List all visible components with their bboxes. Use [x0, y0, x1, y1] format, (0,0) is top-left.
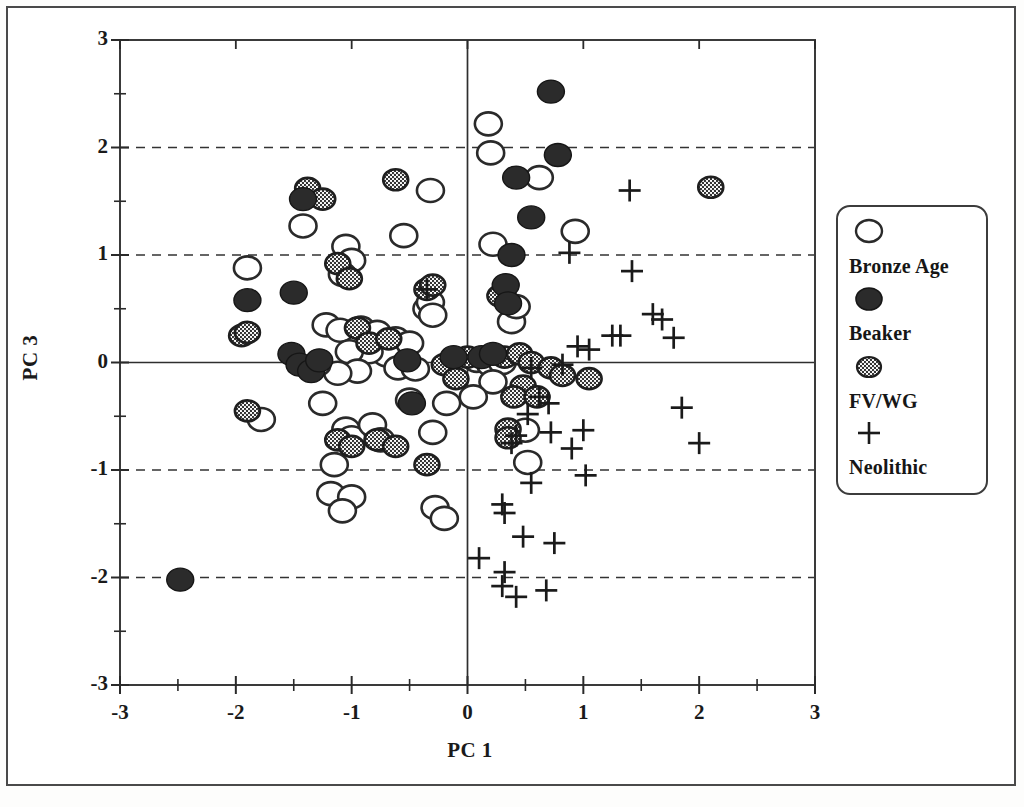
data-point-hatched-circle [501, 386, 526, 407]
data-point-open-circle [562, 220, 589, 243]
filled-circle-icon [852, 285, 886, 313]
data-point-filled-circle [306, 349, 333, 372]
data-point-filled-circle [498, 244, 525, 267]
data-point-open-circle [329, 499, 356, 522]
data-point-open-circle [431, 507, 458, 530]
data-point-open-circle [433, 392, 460, 415]
data-point-plus [642, 303, 664, 325]
data-point-plus [520, 472, 542, 494]
data-point-open-circle [477, 141, 504, 164]
data-point-filled-circle [290, 188, 317, 211]
data-point-filled-circle [167, 568, 194, 591]
legend: Bronze Age Beaker FV/WG Neolithic [836, 205, 988, 495]
data-point-plus [535, 579, 557, 601]
data-point-hatched-circle [443, 368, 468, 389]
data-point-open-circle [290, 214, 317, 237]
data-point-open-circle [321, 453, 348, 476]
data-point-filled-circle [518, 206, 545, 229]
legend-label: Bronze Age [849, 255, 949, 278]
open-circle-icon [852, 217, 886, 245]
data-point-filled-circle [280, 281, 307, 304]
xtick-label: 0 [448, 700, 488, 725]
data-point-plus [575, 464, 597, 486]
data-point-hatched-circle [235, 400, 260, 421]
data-point-filled-circle [495, 292, 522, 315]
data-point-open-circle [475, 112, 502, 135]
data-point-hatched-circle [337, 268, 362, 289]
data-point-filled-circle [394, 349, 421, 372]
data-point-open-circle [460, 385, 487, 408]
data-point-plus [491, 575, 513, 597]
data-point-plus [543, 532, 565, 554]
data-point-open-circle [234, 256, 261, 279]
xtick-label: -1 [332, 700, 372, 725]
data-point-hatched-circle [383, 436, 408, 457]
data-point-filled-circle [440, 346, 467, 369]
data-point-plus [688, 432, 710, 454]
ytick-label: 3 [62, 26, 108, 51]
data-point-open-circle [417, 179, 444, 202]
xtick-label: -3 [100, 700, 140, 725]
data-point-plus [512, 526, 534, 548]
data-point-plus [558, 242, 580, 264]
data-point-hatched-circle [339, 436, 364, 457]
ytick-label: -3 [62, 671, 108, 696]
ytick-label: -1 [62, 456, 108, 481]
ytick-label: -2 [62, 564, 108, 589]
data-point-hatched-circle [414, 454, 439, 475]
y-axis-title: PC 3 [18, 298, 43, 418]
legend-label: Beaker [849, 322, 911, 345]
data-point-hatched-circle [376, 328, 401, 349]
data-point-open-circle [419, 304, 446, 327]
data-point-plus [671, 397, 693, 419]
xtick-label: 2 [679, 700, 719, 725]
data-point-filled-circle [503, 166, 530, 189]
data-point-filled-circle [544, 144, 571, 167]
ytick-label: 1 [62, 241, 108, 266]
data-point-filled-circle [537, 80, 564, 103]
scatter-plot-figure: -3 -2 -1 0 1 2 3 3 2 1 0 -1 -2 -3 PC 1 P… [0, 0, 1024, 807]
data-point-open-circle [514, 451, 541, 474]
xtick-label: 3 [795, 700, 835, 725]
data-point-plus [578, 339, 600, 361]
data-point-plus [505, 586, 527, 608]
data-point-plus [494, 561, 516, 583]
ytick-label: 0 [62, 349, 108, 374]
data-point-open-circle [419, 421, 446, 444]
data-point-hatched-circle [235, 322, 260, 343]
data-point-plus [572, 419, 594, 441]
data-point-plus [561, 438, 583, 460]
data-point-hatched-circle [420, 275, 445, 296]
xtick-label: 1 [563, 700, 603, 725]
data-point-plus [468, 547, 490, 569]
plus-icon [852, 419, 886, 447]
xtick-label: -2 [216, 700, 256, 725]
legend-label: Neolithic [849, 456, 927, 479]
data-point-filled-circle [234, 289, 261, 312]
data-point-plus [567, 335, 589, 357]
data-point-plus [651, 309, 673, 331]
ytick-label: 2 [62, 134, 108, 159]
legend-label: FV/WG [849, 390, 918, 413]
data-point-open-circle [309, 392, 336, 415]
data-points [167, 80, 724, 608]
data-point-hatched-circle [577, 368, 602, 389]
data-point-open-circle [390, 224, 417, 247]
data-point-plus [663, 327, 685, 349]
data-point-plus [621, 260, 643, 282]
data-point-filled-circle [479, 342, 506, 365]
x-axis-title: PC 1 [0, 738, 940, 763]
data-point-hatched-circle [698, 177, 723, 198]
data-point-filled-circle [398, 392, 425, 415]
data-point-plus [619, 180, 641, 202]
data-point-plus [540, 421, 562, 443]
hatched-circle-icon [852, 353, 886, 381]
data-point-hatched-circle [383, 169, 408, 190]
